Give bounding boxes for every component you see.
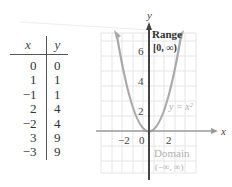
y-tick-6: 6 [138,45,144,57]
y-tick-2: 2 [138,105,144,117]
x-axis-arrow-icon [211,128,218,134]
x-tick-neg2: −2 [118,134,130,146]
x-tick-2: 2 [166,134,172,146]
domain-value: (−∞, ∞) [155,162,183,172]
x-tick-0: 0 [139,134,145,146]
range-value: [0, ∞) [153,42,177,54]
parabola-graph: y x 6 4 2 −2 0 2 Range [0, ∞) y = x² Dom… [0,0,232,187]
curve-arrow-left-icon [114,30,121,39]
range-title: Range [152,28,182,40]
domain-title: Domain [154,147,190,159]
y-tick-4: 4 [138,75,144,87]
x-axis-label: x [220,125,226,137]
curve-label: y = x² [168,101,194,112]
y-axis-label: y [146,9,152,21]
